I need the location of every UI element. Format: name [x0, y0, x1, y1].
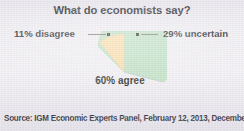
leader-line-uncertain	[141, 34, 158, 35]
leader-dot-disagree	[107, 33, 110, 36]
pie-callout-uncertain: 29% uncertain	[163, 28, 228, 39]
pie-chart-svg	[83, 31, 167, 113]
leader-dot-uncertain	[136, 33, 139, 36]
pie-slice-label-agree: 60% agree	[86, 75, 154, 86]
page-title: What do economists say?	[0, 4, 244, 16]
pie-chart	[83, 31, 167, 113]
leader-line-disagree	[88, 34, 106, 35]
pie-slice-disagree[interactable]	[100, 34, 124, 72]
figure-canvas: What do economists say? 60% agree 11% di…	[0, 0, 244, 131]
pie-callout-disagree: 11% disagree	[14, 28, 75, 39]
source-caption: Source: IGM Economic Experts Panel, Febr…	[4, 114, 238, 123]
